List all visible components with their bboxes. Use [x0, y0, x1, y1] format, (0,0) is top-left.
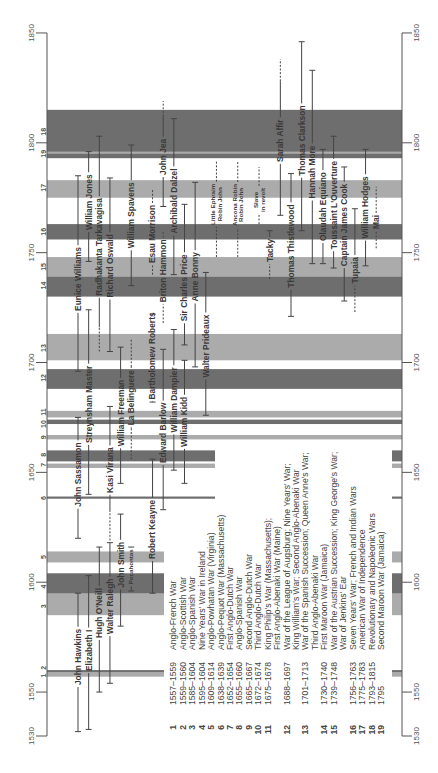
person-name-label: John Jea — [158, 138, 168, 175]
person-lifeline: Walter Ralegh — [105, 543, 115, 684]
person-name-label: William Spavens — [126, 182, 136, 248]
war-number-label: 1 — [40, 674, 47, 678]
person-name-label: Anne Bonny — [190, 252, 200, 302]
person-name-label: Thomas Clarkson — [297, 105, 307, 175]
axis-tick-label: 1750 — [412, 243, 421, 261]
legend-row: 111675–1678King Philip's War (Massachuse… — [263, 518, 282, 734]
axis-tick-label: 1530 — [27, 727, 36, 745]
war-bar-stub — [392, 672, 402, 676]
person-lifeline: William Hodges — [360, 149, 370, 265]
war-bar — [47, 110, 402, 158]
axis-tick-label: 1700 — [412, 353, 421, 371]
war-bar-stub — [392, 497, 402, 499]
legend-row: 191795Second Maroon War (Jamaica) — [376, 531, 386, 734]
legend-war-number: 11 — [263, 725, 273, 734]
person-name-label: Tupaia — [350, 257, 360, 284]
person-name-label: Robin John — [216, 187, 223, 221]
legend-row: 151739–1748War of the Austrian Successio… — [329, 452, 348, 735]
legend-war-dates: 1675–1678 — [263, 662, 273, 705]
timeline-chart-svg: 1530155016001650170017501800185015301550… — [0, 0, 438, 773]
person-name-label: Eunice Williams — [73, 247, 83, 311]
person-name-label: John Hawkins — [73, 628, 83, 685]
person-lifeline: Olaudah Equiano — [318, 149, 328, 263]
person-name-label: Esau Morrison — [147, 205, 157, 263]
person-name-label: Hugh O'Neill — [94, 588, 104, 638]
legend-row: 121688–1697War of the League of Augsburg… — [282, 463, 301, 734]
war-number-label: 11 — [40, 408, 47, 416]
person-lifeline: Slavein revolt — [252, 167, 266, 224]
person-lifeline: William Jones — [84, 152, 94, 262]
axis-tick-label: 1530 — [412, 727, 421, 745]
legend-row: 131701–1713War of the Spanish Succession… — [300, 452, 319, 734]
legend-war-dates: 1701–1713 — [300, 662, 310, 705]
war-number-label: 3 — [40, 604, 47, 608]
person-name-label: Edward Barlow — [158, 402, 168, 463]
war-number-label: 19 — [40, 150, 47, 158]
axis-tick-label: 1600 — [412, 573, 421, 591]
war-number-label: 17 — [40, 184, 47, 192]
war-number-label: 8 — [40, 453, 47, 457]
war-number-label: 15 — [40, 263, 47, 271]
axis-tick-label: 1650 — [27, 463, 36, 481]
person-lifeline: William Freeman — [116, 347, 126, 483]
person-name-label: Archibald Dalzel — [169, 168, 179, 233]
person-lifeline: Briton Hammon — [158, 231, 168, 323]
person-name-label: Hannah More — [307, 145, 317, 198]
person-name-label: Streynsham Master — [84, 365, 94, 443]
war-number-label: 18 — [40, 128, 47, 136]
axis-tick-label: 1550 — [27, 683, 36, 701]
war-number-label: 16 — [40, 228, 47, 236]
person-lifeline: Thomas Clarkson — [297, 42, 307, 231]
war-bar-stub — [392, 573, 402, 593]
person-name-label: Elizabeth I — [84, 630, 94, 671]
person-name-label: Toussaint L'Ouverture — [329, 160, 339, 249]
person-name-label: Sir Charles Price — [179, 254, 189, 321]
war-number-labels: 12345678910111213141516171819 — [40, 128, 47, 678]
axis-tick-label: 1600 — [27, 573, 36, 591]
person-name-label: Robert Keayne — [147, 500, 157, 559]
legend-war-name: Second Maroon War (Jamaica) — [376, 531, 386, 650]
person-name-label: Walter Prideaux — [201, 314, 211, 377]
war-number-label: 2 — [40, 666, 47, 670]
axis-tick-label: 1800 — [27, 133, 36, 151]
legend-war-number: 15 — [329, 725, 339, 735]
person-name-label: Tacky — [265, 239, 275, 262]
person-name-label: La Belinguere — [126, 370, 136, 426]
person-name-label: Pocahontas — [127, 549, 134, 585]
war-bar — [47, 369, 402, 389]
war-bar-stub — [392, 450, 402, 461]
war-bar-stub — [392, 551, 402, 562]
axis-tick-label: 1800 — [412, 133, 421, 151]
war-bar — [47, 435, 402, 439]
axis-tick-label: 1700 — [27, 353, 36, 371]
legend-war-dates: 1688–1697 — [282, 662, 292, 705]
person-name-label: John Smith — [116, 542, 126, 588]
legend-war-number: 12 — [282, 725, 292, 735]
person-lifeline: Robert Keayne — [147, 459, 157, 593]
war-number-label: 10 — [40, 420, 47, 428]
axis-tick-label: 1750 — [27, 243, 36, 261]
war-bar — [47, 334, 402, 360]
war-number-label: 6 — [40, 496, 47, 500]
axis-tick-label: 1850 — [412, 24, 421, 42]
person-name-label: Thomas Thistlewood — [286, 204, 296, 287]
legend-war-dates: 1739–1748 — [329, 662, 339, 705]
war-number-label: 7 — [40, 463, 47, 467]
timeline-chart: 1530155016001650170017501800185015301550… — [0, 0, 438, 773]
person-name-label: William Kidd — [179, 397, 189, 447]
war-bar — [47, 420, 402, 424]
legend-war-number: 19 — [376, 725, 386, 735]
person-lifeline: Little EphraimRobin John — [209, 160, 223, 257]
war-number-label: 4 — [40, 585, 47, 589]
person-name-label: William Hodges — [360, 176, 370, 239]
person-name-label: Richard Oswald — [105, 234, 115, 297]
war-number-label: 9 — [40, 435, 47, 439]
person-name-label: Bartholomew Roberts — [147, 312, 157, 399]
person-lifeline: Radhakanta Tarkavagisa — [94, 136, 104, 351]
person-lifeline: Kasi Virana — [105, 406, 115, 540]
person-name-label: in revolt — [259, 188, 266, 212]
axis-tick-label: 1550 — [412, 683, 421, 701]
person-name-label: Radhakanta Tarkavagisa — [94, 198, 104, 296]
war-number-label: 14 — [40, 282, 47, 290]
war-legend: 11557–1559Anglo-French War21559–1560Angl… — [168, 452, 386, 735]
